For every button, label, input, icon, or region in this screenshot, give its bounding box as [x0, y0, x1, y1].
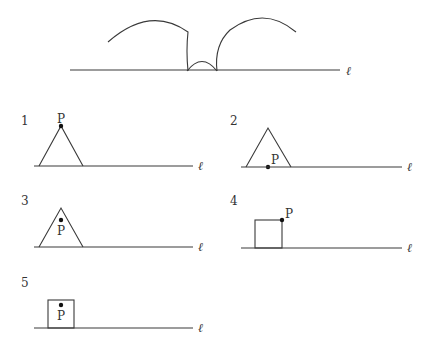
large-arc-right: [217, 18, 296, 71]
option-5[interactable]: 5 P ℓ: [21, 276, 203, 335]
triangle: [246, 128, 291, 167]
option-number: 3: [21, 194, 29, 208]
square: [255, 220, 282, 248]
line-label: ℓ: [407, 160, 412, 174]
point-p: [59, 303, 63, 307]
line-label: ℓ: [198, 321, 203, 335]
option-2[interactable]: 2 P ℓ: [230, 114, 412, 174]
diagram-canvas: ℓ 1 P ℓ 2 P ℓ 3 P ℓ 4 P ℓ 5: [0, 0, 429, 338]
option-number: 1: [21, 114, 29, 128]
point-label: P: [57, 224, 65, 238]
option-number: 5: [21, 276, 29, 290]
point-label: P: [285, 207, 293, 221]
point-label: P: [271, 153, 279, 167]
option-4[interactable]: 4 P ℓ: [230, 194, 412, 255]
top-path-figure: ℓ: [70, 18, 351, 78]
large-arc-left: [108, 21, 188, 71]
line-label: ℓ: [407, 241, 412, 255]
point-label: P: [57, 309, 65, 323]
line-label: ℓ: [198, 159, 203, 173]
point-p: [59, 218, 63, 222]
triangle: [39, 126, 83, 166]
line-label-top: ℓ: [346, 64, 351, 78]
option-number: 2: [230, 114, 238, 128]
option-number: 4: [230, 194, 238, 208]
point-label: P: [57, 112, 65, 126]
line-label: ℓ: [198, 240, 203, 254]
option-1[interactable]: 1 P ℓ: [21, 112, 203, 173]
point-p: [280, 218, 284, 222]
option-3[interactable]: 3 P ℓ: [21, 194, 203, 254]
